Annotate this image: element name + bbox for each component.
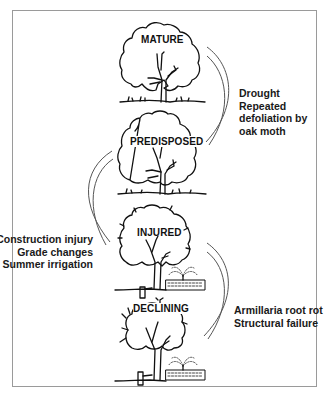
spiral-arc-predisposed-to-injured [88, 151, 113, 245]
factor-line: Grade changes [0, 246, 93, 259]
spiral-arc-mature-to-predisposed [206, 47, 229, 145]
factor-line: Drought [239, 87, 307, 100]
factors-predisposed-to-injured: Construction injury Grade changes Summer… [0, 233, 93, 271]
factor-line: Repeated [239, 100, 307, 113]
factor-line: oak moth [239, 125, 307, 138]
factor-line: defoliation by [239, 112, 307, 125]
stage-label-predisposed: PREDISPOSED [129, 136, 204, 147]
factors-injured-to-declining: Armillaria root rot Structural failure [234, 304, 323, 329]
diagram-illustration [0, 0, 328, 398]
predisposed-tree-icon [118, 111, 206, 194]
factor-line: Structural failure [234, 317, 323, 330]
injured-tree-icon [115, 205, 205, 298]
factor-line: Summer irrigation [0, 258, 93, 271]
stage-label-mature: MATURE [141, 34, 184, 45]
factors-mature-to-predisposed: Drought Repeated defoliation by oak moth [239, 87, 307, 137]
factor-line: Armillaria root rot [234, 304, 323, 317]
stage-label-declining: DECLINING [133, 303, 189, 314]
factor-line: Construction injury [0, 233, 93, 246]
stage-label-injured: INJURED [137, 227, 182, 238]
spiral-arc-injured-to-declining [204, 243, 228, 339]
